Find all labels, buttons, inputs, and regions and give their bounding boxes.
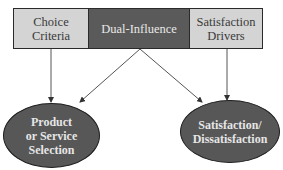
dual-influence-box: Dual-Influence [88, 8, 190, 49]
product-selection-ellipse: Product or Service Selection [3, 103, 100, 168]
satisfaction-drivers-label: Satisfaction Drivers [196, 15, 255, 43]
dual-influence-label: Dual-Influence [101, 22, 177, 36]
choice-criteria-box: Choice Criteria [13, 8, 89, 49]
satisfaction-label: Satisfaction/ Dissatisfaction [193, 118, 268, 146]
satisfaction-ellipse: Satisfaction/ Dissatisfaction [180, 100, 280, 163]
product-selection-label: Product or Service Selection [26, 115, 77, 157]
choice-criteria-label: Choice Criteria [32, 15, 70, 43]
satisfaction-drivers-box: Satisfaction Drivers [189, 8, 263, 49]
arrow-dual-to-satisfaction [140, 49, 202, 102]
arrow-dual-to-selection [80, 49, 140, 102]
